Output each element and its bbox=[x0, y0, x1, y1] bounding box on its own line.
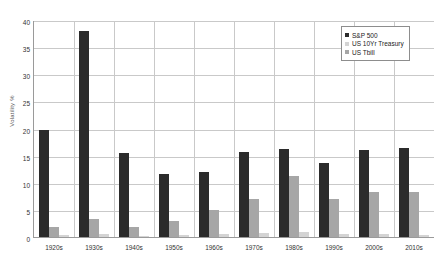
bar[interactable] bbox=[169, 221, 179, 237]
x-axis-tick-label: 1920s bbox=[45, 244, 63, 251]
y-axis-title: Volatility % bbox=[9, 81, 15, 141]
bar[interactable] bbox=[359, 150, 369, 237]
legend-item-us-tbill[interactable]: US Tbill bbox=[345, 49, 404, 56]
bar-group: 1960s bbox=[194, 21, 234, 237]
bar[interactable] bbox=[419, 235, 429, 237]
bar[interactable] bbox=[199, 172, 209, 237]
x-axis-tick-label: 1950s bbox=[165, 244, 183, 251]
legend-label: US 10Yr Treasury bbox=[352, 40, 404, 47]
bar[interactable] bbox=[89, 219, 99, 237]
y-axis-tick-label: 40 bbox=[23, 19, 30, 26]
bar[interactable] bbox=[39, 130, 49, 237]
legend-label: US Tbill bbox=[352, 49, 375, 56]
bar[interactable] bbox=[409, 192, 419, 237]
bar[interactable] bbox=[159, 174, 169, 237]
bar[interactable] bbox=[399, 148, 409, 238]
bar[interactable] bbox=[369, 192, 379, 237]
y-axis-tick-label: 25 bbox=[23, 100, 30, 107]
bar[interactable] bbox=[59, 235, 69, 237]
bar-group: 1920s bbox=[34, 21, 74, 237]
bar[interactable] bbox=[119, 153, 129, 237]
bar-group: 1980s bbox=[274, 21, 314, 237]
bar-group: 1940s bbox=[114, 21, 154, 237]
legend-swatch-icon bbox=[345, 50, 349, 54]
legend-item-us-10yr-treasury[interactable]: US 10Yr Treasury bbox=[345, 40, 404, 47]
bar[interactable] bbox=[289, 176, 299, 237]
y-axis-tick-label: 0 bbox=[26, 236, 30, 243]
bar[interactable] bbox=[209, 210, 219, 237]
y-axis-tick-label: 15 bbox=[23, 154, 30, 161]
bar[interactable] bbox=[259, 233, 269, 237]
bar[interactable] bbox=[79, 31, 89, 237]
y-axis-tick-label: 10 bbox=[23, 181, 30, 188]
x-axis-tick-label: 1930s bbox=[85, 244, 103, 251]
y-axis-tick-label: 35 bbox=[23, 46, 30, 53]
chart-legend: S&P 500 US 10Yr Treasury US Tbill bbox=[341, 26, 410, 61]
y-axis-tick-label: 30 bbox=[23, 73, 30, 80]
x-axis-tick-label: 1980s bbox=[285, 244, 303, 251]
bar[interactable] bbox=[299, 232, 309, 237]
x-axis-tick-label: 1990s bbox=[325, 244, 343, 251]
y-axis-tick-label: 20 bbox=[23, 127, 30, 134]
legend-swatch-icon bbox=[345, 42, 349, 46]
legend-item-sp500[interactable]: S&P 500 bbox=[345, 32, 404, 39]
bar[interactable] bbox=[239, 152, 249, 237]
legend-label: S&P 500 bbox=[352, 32, 378, 39]
bar-group: 1970s bbox=[234, 21, 274, 237]
bar[interactable] bbox=[339, 234, 349, 237]
volatility-bar-chart: Volatility % 0510152025303540 1920s1930s… bbox=[0, 0, 448, 278]
bar[interactable] bbox=[249, 199, 259, 237]
bar[interactable] bbox=[219, 234, 229, 237]
x-axis-tick-label: 1940s bbox=[125, 244, 143, 251]
bar[interactable] bbox=[319, 163, 329, 237]
bar[interactable] bbox=[379, 234, 389, 237]
gridline: 0 bbox=[34, 238, 434, 239]
x-axis-tick-label: 1970s bbox=[245, 244, 263, 251]
bar-group: 1930s bbox=[74, 21, 114, 237]
bar[interactable] bbox=[179, 235, 189, 237]
x-axis-tick-label: 2000s bbox=[365, 244, 383, 251]
bar[interactable] bbox=[279, 149, 289, 237]
bar[interactable] bbox=[329, 199, 339, 237]
bar-group: 1950s bbox=[154, 21, 194, 237]
bar[interactable] bbox=[99, 234, 109, 237]
bar[interactable] bbox=[139, 236, 149, 237]
bar[interactable] bbox=[129, 227, 139, 237]
legend-swatch-icon bbox=[345, 33, 349, 37]
bar[interactable] bbox=[49, 227, 59, 237]
y-axis-tick-label: 5 bbox=[26, 208, 30, 215]
x-axis-tick-label: 1960s bbox=[205, 244, 223, 251]
x-axis-tick-label: 2010s bbox=[405, 244, 423, 251]
